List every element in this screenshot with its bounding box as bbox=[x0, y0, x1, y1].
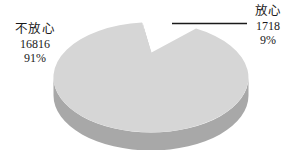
slice-label-value: 1718 bbox=[246, 19, 290, 33]
pie-slice-top-face bbox=[53, 23, 248, 133]
slice-label-name: 不放心 bbox=[4, 22, 66, 37]
slice-label-percent: 91% bbox=[4, 51, 66, 65]
slice-label-fangxin: 放心 1718 9% bbox=[246, 4, 290, 47]
slice-label-buxinxin: 不放心 16816 91% bbox=[4, 22, 66, 65]
slice-label-name: 放心 bbox=[246, 4, 290, 19]
slice-label-value: 16816 bbox=[4, 37, 66, 51]
slice-label-percent: 9% bbox=[246, 33, 290, 47]
pie-chart-figure: 不放心 16816 91% 放心 1718 9% bbox=[0, 0, 291, 150]
